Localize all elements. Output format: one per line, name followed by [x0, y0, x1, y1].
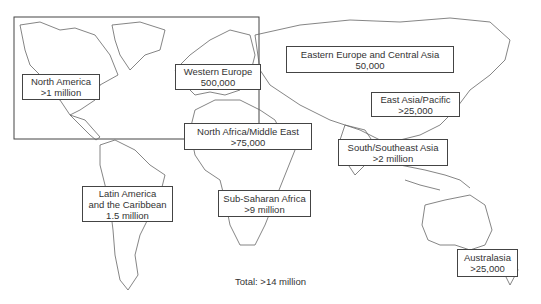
region-name: North Africa/Middle East [185, 126, 311, 137]
region-value: >9 million [219, 204, 310, 215]
region-name: North America [23, 76, 99, 87]
region-label-latin-america-caribbean: Latin America and the Caribbean 1.5 mill… [82, 186, 173, 222]
region-label-western-europe: Western Europe 500,000 [175, 64, 261, 90]
region-value: >75,000 [185, 137, 311, 148]
region-value: 50,000 [287, 60, 453, 71]
region-value: >25,000 [372, 105, 459, 116]
region-name: Australasia [458, 252, 517, 263]
total-label: Total: >14 million [235, 276, 306, 287]
region-label-east-asia-pacific: East Asia/Pacific >25,000 [371, 92, 460, 117]
region-value: 500,000 [176, 77, 260, 88]
region-label-eastern-europe-central-asia: Eastern Europe and Central Asia 50,000 [286, 46, 454, 73]
region-label-north-africa-middle-east: North Africa/Middle East >75,000 [184, 123, 312, 150]
region-label-australasia: Australasia >25,000 [457, 249, 518, 277]
region-label-north-america: North America >1 million [22, 74, 100, 100]
region-value: >2 million [339, 153, 447, 164]
region-name: Eastern Europe and Central Asia [287, 49, 453, 60]
region-name: Western Europe [176, 66, 260, 77]
region-label-south-southeast-asia: South/Southeast Asia >2 million [338, 139, 448, 166]
region-name-line2: and the Caribbean [83, 199, 172, 210]
region-name: Sub-Saharan Africa [219, 193, 310, 204]
region-value: >1 million [23, 87, 99, 98]
region-name: East Asia/Pacific [372, 94, 459, 105]
region-name: South/Southeast Asia [339, 142, 447, 153]
region-value: 1.5 million [83, 210, 172, 221]
region-value: >25,000 [458, 263, 517, 274]
region-name-line1: Latin America [83, 188, 172, 199]
region-label-sub-saharan-africa: Sub-Saharan Africa >9 million [218, 190, 311, 217]
